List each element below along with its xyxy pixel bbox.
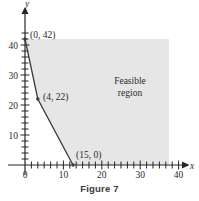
y-tick-label-30: 30 <box>9 71 19 81</box>
feasible-region-label-line1: Feasible <box>114 76 146 86</box>
point-label-0-42: (0, 42) <box>30 30 55 41</box>
feasible-region-shading <box>25 39 169 165</box>
x-axis-arrow-icon <box>182 161 190 168</box>
y-tick-label-10: 10 <box>9 131 19 141</box>
feasible-region-plot: 0 10 20 30 40 10 20 30 40 x y (0, 42) (4… <box>0 0 199 201</box>
x-tick-label-0: 0 <box>23 170 28 180</box>
point-label-15-0: (15, 0) <box>76 150 101 161</box>
vertex-marker-4-22 <box>36 97 39 100</box>
x-tick-label-10: 10 <box>59 170 69 180</box>
feasible-region-label-line2: region <box>118 88 143 98</box>
x-tick-label-20: 20 <box>97 170 107 180</box>
x-axis-label: x <box>189 161 195 171</box>
figure-caption: Figure 7 <box>0 183 199 194</box>
x-tick-label-30: 30 <box>135 170 145 180</box>
x-tick-label-40: 40 <box>174 170 184 180</box>
y-tick-label-40: 40 <box>9 41 19 51</box>
vertex-marker-0-42 <box>23 37 26 40</box>
figure-container: 0 10 20 30 40 10 20 30 40 x y (0, 42) (4… <box>0 0 199 201</box>
point-label-4-22: (4, 22) <box>43 92 68 103</box>
y-tick-label-20: 20 <box>9 101 19 111</box>
vertex-marker-15-0 <box>71 163 74 166</box>
y-axis-label: y <box>24 0 30 9</box>
